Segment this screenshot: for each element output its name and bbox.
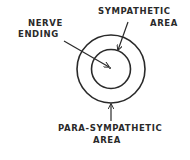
parasympathetic-label-line1: PARA-SYMPATHETIC [58,124,162,133]
outer-circle-parasympathetic [77,35,145,103]
nerve-ending-label-line2: ENDING [18,30,59,39]
sympathetic-label-line1: SYMPATHETIC [98,7,171,16]
sympathetic-label-line2: AREA [150,19,178,28]
nerve-ending-dot [109,67,111,69]
parasympathetic-label-line2: AREA [93,136,121,145]
inner-circle-sympathetic [92,50,131,89]
nerve-ending-label-line1: NERVE [28,19,63,28]
